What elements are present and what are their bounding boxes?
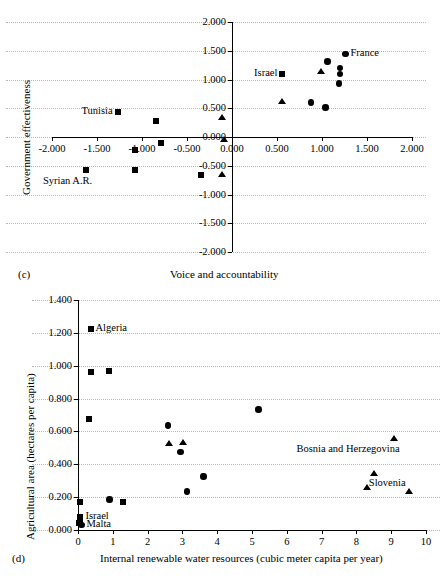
y-axis-tick-label: 0.200 xyxy=(32,491,72,502)
data-point-label: Bosnia and Herzegovina xyxy=(296,443,399,454)
x-axis-tick xyxy=(412,137,413,141)
data-point-square xyxy=(86,416,92,422)
gridline-y xyxy=(32,431,440,432)
data-point-triangle xyxy=(317,68,325,74)
data-point-circle xyxy=(165,422,172,429)
x-axis-tick xyxy=(287,530,288,534)
x-axis-tick-label: 2.000 xyxy=(387,143,437,154)
chart-panel-d: 1.4001.2001.0000.8000.6000.4000.2000.000… xyxy=(0,290,443,583)
data-point-triangle xyxy=(218,114,226,120)
x-axis-tick xyxy=(182,530,183,534)
y-axis-title-d: Agricultural area (hectares per capita) xyxy=(24,373,36,540)
y-axis-tick xyxy=(228,51,232,52)
y-axis-tick-label: 1.200 xyxy=(32,327,72,338)
x-axis-tick-label: -1.500 xyxy=(72,143,122,154)
y-axis-tick-label: 1.000 xyxy=(186,74,226,85)
y-axis-tick-label: 0.000 xyxy=(32,524,72,535)
data-point-label: Syrian A.R. xyxy=(43,175,92,186)
x-axis-tick xyxy=(148,530,149,534)
y-axis-line xyxy=(78,300,79,530)
y-axis-tick-label: 1.400 xyxy=(32,294,72,305)
data-point-square xyxy=(153,118,159,124)
x-axis-tick xyxy=(142,137,143,141)
x-axis-title-d: Internal renewable water resources (cubi… xyxy=(100,552,383,564)
data-point-triangle xyxy=(278,98,286,104)
x-axis-tick-label: 0.000 xyxy=(207,143,257,154)
x-axis-tick xyxy=(217,530,218,534)
data-point-circle xyxy=(106,496,113,503)
data-point-triangle xyxy=(220,136,228,142)
y-axis-tick xyxy=(228,252,232,253)
x-axis-tick xyxy=(252,530,253,534)
x-axis-tick xyxy=(52,137,53,141)
y-axis-tick xyxy=(74,399,78,400)
y-axis-tick xyxy=(228,80,232,81)
x-axis-tick xyxy=(426,530,427,534)
data-point-square xyxy=(132,167,138,173)
data-point-triangle xyxy=(165,440,173,446)
data-point-square xyxy=(158,140,164,146)
panel-letter-d: (d) xyxy=(12,552,25,564)
x-axis-tick xyxy=(277,137,278,141)
x-axis-tick-label: -0.500 xyxy=(162,143,212,154)
gridline-y xyxy=(32,399,440,400)
x-axis-tick-label: 1.500 xyxy=(342,143,392,154)
y-axis-tick xyxy=(74,366,78,367)
y-axis-tick-label: 1.500 xyxy=(186,45,226,56)
x-axis-tick xyxy=(97,137,98,141)
gridline-y xyxy=(32,497,440,498)
data-point-triangle xyxy=(179,439,187,445)
data-point-circle xyxy=(322,104,329,111)
data-point-circle xyxy=(336,80,343,87)
y-axis-tick xyxy=(228,195,232,196)
y-axis-tick-label: 0.400 xyxy=(32,458,72,469)
data-point-circle xyxy=(337,71,344,78)
y-axis-tick-label: 1.000 xyxy=(32,360,72,371)
y-axis-tick xyxy=(228,22,232,23)
y-axis-tick-label: 0.800 xyxy=(32,393,72,404)
data-point-square xyxy=(88,369,94,375)
x-axis-tick xyxy=(356,530,357,534)
x-axis-tick xyxy=(391,530,392,534)
gridline-y xyxy=(32,464,440,465)
gridline-y xyxy=(32,366,440,367)
x-axis-tick xyxy=(78,530,79,534)
data-point-label: Tunisia xyxy=(82,105,113,116)
x-axis-tick xyxy=(113,530,114,534)
x-axis-tick-label: -2.000 xyxy=(27,143,77,154)
data-point-circle xyxy=(324,58,331,65)
data-point-circle xyxy=(78,522,85,529)
data-point-label: Malta xyxy=(86,518,111,529)
data-point-square xyxy=(198,172,204,178)
y-axis-tick xyxy=(74,333,78,334)
data-point-triangle xyxy=(218,171,226,177)
y-axis-tick xyxy=(228,108,232,109)
x-axis-tick-label: 0.500 xyxy=(252,143,302,154)
x-axis-tick xyxy=(187,137,188,141)
x-axis-tick xyxy=(232,137,233,141)
data-point-square xyxy=(88,326,94,332)
y-axis-tick-label: -0.500 xyxy=(186,160,226,171)
data-point-triangle xyxy=(370,470,378,476)
x-axis-tick xyxy=(322,530,323,534)
data-point-square xyxy=(83,167,89,173)
y-axis-tick xyxy=(74,300,78,301)
data-point-circle xyxy=(200,473,207,480)
x-axis-tick-label: 10 xyxy=(401,536,443,547)
y-axis-tick xyxy=(228,166,232,167)
data-point-triangle xyxy=(390,435,398,441)
data-point-circle xyxy=(255,406,262,413)
plot-area-c: 2.0001.5001.0000.5000.000-0.500-1.000-1.… xyxy=(52,22,412,252)
y-axis-tick-label: -1.500 xyxy=(186,217,226,228)
gridline-y xyxy=(32,300,440,301)
data-point-label: France xyxy=(350,47,379,58)
data-point-square xyxy=(279,71,285,77)
data-point-square xyxy=(120,499,126,505)
x-axis-tick xyxy=(367,137,368,141)
y-axis-tick xyxy=(74,431,78,432)
data-point-square xyxy=(132,147,138,153)
y-axis-tick xyxy=(228,223,232,224)
y-axis-tick-label: -1.000 xyxy=(186,189,226,200)
y-axis-tick xyxy=(74,464,78,465)
panel-letter-c: (c) xyxy=(18,268,30,280)
